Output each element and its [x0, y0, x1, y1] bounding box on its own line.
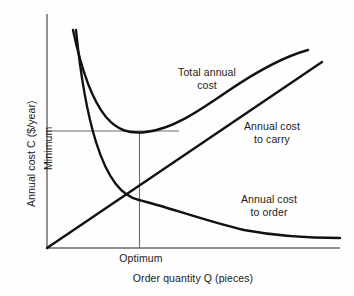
- annotation-total-annual-cost: Total annual cost: [168, 66, 246, 91]
- y-axis-minimum-label: Minimum: [42, 127, 54, 170]
- y-axis-title: Annual cost C ($/year): [25, 100, 37, 207]
- x-axis-optimum-label: Optimum: [112, 252, 170, 265]
- annotation-annual-cost-to-carry: Annual cost to carry: [229, 120, 315, 145]
- x-axis-title: Order quantity Q (pieces): [104, 272, 282, 285]
- eoq-cost-chart-figure: Annual cost C ($/year) Minimum Total ann…: [0, 0, 354, 296]
- annotation-annual-cost-to-order: Annual cost to order: [226, 193, 312, 218]
